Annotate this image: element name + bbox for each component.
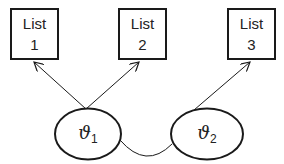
- list-1-label: List: [23, 13, 46, 34]
- list-2-box: List 2: [118, 8, 167, 60]
- theta-1-symbol: ϑ: [78, 122, 91, 143]
- edge-theta1-to-list1: [34, 62, 86, 109]
- theta-1-subscript: 1: [91, 132, 98, 146]
- edge-theta1-to-list2: [86, 62, 139, 109]
- list-1-box: List 1: [10, 8, 59, 60]
- list-3-box: List 3: [227, 8, 276, 60]
- list-3-label: List: [240, 13, 263, 34]
- list-2-number: 2: [138, 34, 146, 55]
- node-theta-2-label: ϑ2: [197, 122, 217, 147]
- theta-2-subscript: 2: [210, 132, 217, 146]
- theta-2-symbol: ϑ: [197, 122, 210, 143]
- list-2-label: List: [131, 13, 154, 34]
- list-3-number: 3: [247, 34, 255, 55]
- list-1-number: 1: [30, 34, 38, 55]
- edge-theta1-theta2-curve: [120, 140, 172, 156]
- node-theta-1-label: ϑ1: [78, 122, 98, 147]
- edge-theta2-to-list3: [194, 62, 250, 110]
